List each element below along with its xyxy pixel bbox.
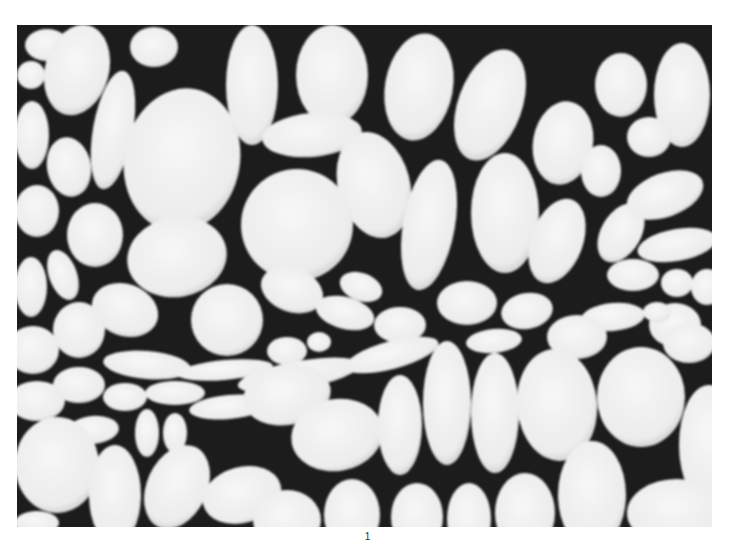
page-number: 1 [0,531,735,542]
cell [191,284,263,356]
cell [130,27,178,67]
cell [296,25,368,125]
cell [661,269,693,297]
cell [53,302,105,358]
cell [103,383,147,411]
cell [627,117,671,157]
cell [471,353,519,473]
cell [17,61,45,89]
cell [145,381,205,405]
cell [607,259,659,291]
cell [135,409,159,457]
pebble-pattern-photo [17,25,712,527]
cell [437,281,497,325]
cell [241,169,353,281]
cell [597,347,685,447]
cell [67,203,123,267]
cell [581,145,621,197]
cell [378,375,422,475]
cells-illustration [17,25,712,527]
cell [17,417,99,513]
cell [643,302,671,322]
cell [595,53,647,117]
cell [307,332,331,352]
cell [423,341,471,465]
cell [17,185,59,237]
